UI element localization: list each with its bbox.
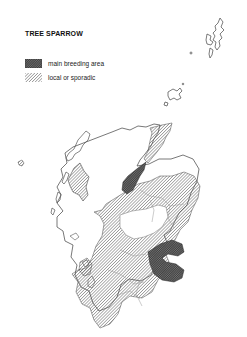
scotland-distribution-map xyxy=(0,0,247,337)
st-kilda xyxy=(18,160,24,166)
shetland-islands xyxy=(190,18,224,58)
orkney-islands xyxy=(164,83,184,106)
skye-local-area xyxy=(68,163,89,201)
northeast-coast-local-area xyxy=(144,123,172,163)
